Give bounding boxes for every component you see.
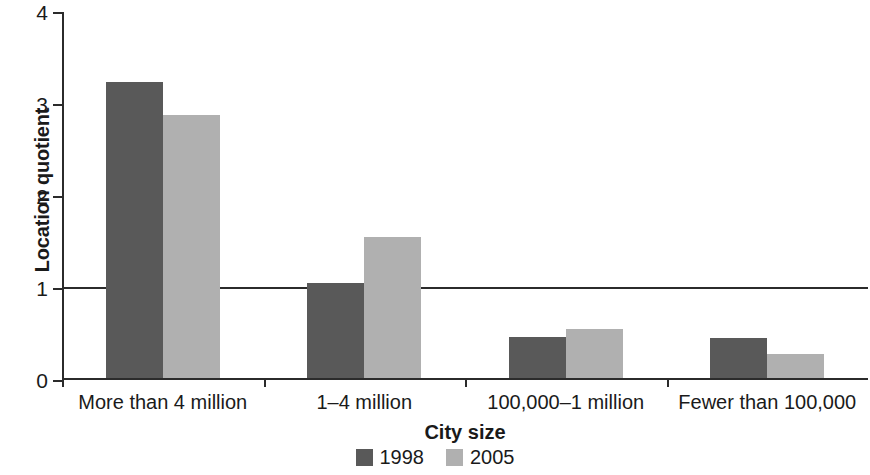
legend-item-2005: 2005 (446, 447, 515, 467)
bar-chart: Location quotient 01234 More than 4 mill… (0, 0, 870, 475)
y-tick-mark (53, 12, 62, 14)
legend-item-1998: 1998 (356, 447, 425, 467)
x-category-label-3: Fewer than 100,000 (667, 388, 869, 416)
legend-label: 1998 (380, 447, 425, 467)
y-tick-label: 4 (36, 2, 48, 23)
y-tick-mark (53, 196, 62, 198)
x-axis-title: City size (62, 420, 868, 444)
bar-2005-3 (767, 354, 824, 378)
bar-2005-1 (364, 237, 421, 378)
y-tick-mark (53, 104, 62, 106)
bar-2005-0 (163, 115, 220, 378)
legend: 19982005 (0, 447, 870, 467)
y-axis-line (62, 12, 64, 380)
bar-1998-1 (307, 283, 364, 378)
x-group-separator (62, 378, 64, 387)
x-category-label-1: 1–4 million (264, 388, 466, 416)
bar-1998-0 (106, 82, 163, 378)
y-tick-label: 2 (36, 186, 48, 207)
y-tick-mark (53, 380, 62, 382)
legend-swatch-icon (446, 449, 463, 466)
x-group-separator (264, 378, 266, 387)
bar-2005-2 (566, 329, 623, 378)
y-tick-mark (53, 288, 62, 290)
x-category-label-2: 100,000–1 million (465, 388, 667, 416)
legend-swatch-icon (356, 449, 373, 466)
x-axis-category-labels: More than 4 million1–4 million100,000–1 … (62, 388, 868, 418)
y-tick-label: 3 (36, 94, 48, 115)
x-group-separator (465, 378, 467, 387)
y-tick-label: 0 (36, 370, 48, 391)
x-group-separator (667, 378, 669, 387)
bar-1998-2 (509, 337, 566, 378)
y-tick-label: 1 (36, 278, 48, 299)
legend-label: 2005 (470, 447, 515, 467)
x-category-label-0: More than 4 million (62, 388, 264, 416)
bar-1998-3 (710, 338, 767, 378)
plot-area: 01234 (62, 12, 868, 380)
